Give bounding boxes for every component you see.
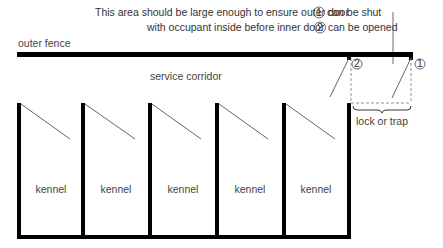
marker-2-number: 2 — [317, 21, 323, 33]
lock-trap-area — [351, 58, 411, 103]
lock-trap-brace — [353, 106, 411, 113]
svg-text:2: 2 — [354, 57, 360, 69]
annotation-line-1-end: can be shut — [327, 6, 381, 18]
kennel-1-label: kennel — [36, 183, 67, 195]
service-corridor-label: service corridor — [150, 70, 222, 82]
outer-fence-label: outer fence — [18, 37, 71, 49]
kennel-walls — [17, 103, 351, 239]
marker-1-number: 1 — [316, 6, 322, 18]
annotation-line-2-text: with occupant inside before inner door — [146, 21, 325, 33]
outer-door-swing — [392, 58, 411, 98]
svg-text:1: 1 — [417, 57, 423, 69]
kennel-3-label: kennel — [168, 183, 199, 195]
annotation-line-2-end: can be opened — [328, 21, 398, 33]
kennel-layout-diagram: This area should be large enough to ensu… — [0, 0, 443, 248]
kennel-2-label: kennel — [101, 183, 132, 195]
kennel-door-swings — [21, 104, 335, 139]
annotation-line-2-group: with occupant inside before inner door 2… — [146, 21, 398, 33]
kennel-4-label: kennel — [235, 183, 266, 195]
inner-door-swing — [330, 58, 349, 97]
lock-or-trap-label: lock or trap — [356, 115, 408, 127]
inner-door-marker: 2 — [352, 57, 362, 69]
annotation-line-1-group: This area should be large enough to ensu… — [95, 6, 381, 18]
annotation-line-1-text: This area should be large enough to ensu… — [95, 6, 349, 18]
outer-door-marker: 1 — [415, 57, 425, 69]
kennel-5-label: kennel — [301, 183, 332, 195]
